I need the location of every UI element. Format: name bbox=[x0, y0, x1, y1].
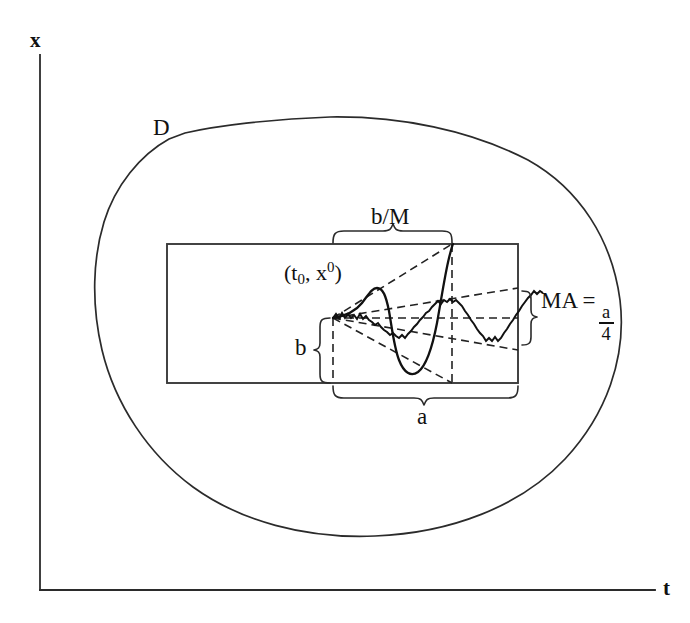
initial-point-middle: , x bbox=[305, 260, 327, 285]
x-axis-label: x bbox=[30, 30, 41, 51]
t-axis-label: t bbox=[663, 578, 670, 599]
brace-bottom-a bbox=[333, 386, 518, 405]
initial-point-subscript: 0 bbox=[297, 271, 304, 287]
brace-bottom-label: a bbox=[417, 405, 427, 428]
cone-upper-ray bbox=[333, 244, 452, 318]
ma-fraction-denominator: 4 bbox=[599, 324, 614, 343]
smooth-trajectory-curve bbox=[333, 244, 453, 374]
initial-point-open: (t bbox=[284, 260, 297, 285]
ma-equation-label: MA =a4 bbox=[541, 289, 614, 343]
smooth-trajectory-group bbox=[333, 244, 453, 374]
ma-equation-lhs: MA = bbox=[541, 288, 596, 313]
ma-fraction-numerator: a bbox=[599, 303, 613, 322]
brace-top-label: b/M bbox=[371, 205, 409, 228]
domain-label: D bbox=[153, 116, 170, 139]
brace-left-b bbox=[314, 318, 330, 383]
figure-root: x t D b/M a b (t0, x0) MA =a4 bbox=[0, 0, 690, 623]
brace-left-label: b bbox=[295, 336, 307, 359]
initial-point-label: (t0, x0) bbox=[284, 262, 342, 284]
brace-right-ma bbox=[522, 291, 537, 345]
initial-point-close: ) bbox=[334, 260, 341, 285]
ma-fraction: a4 bbox=[599, 303, 614, 344]
